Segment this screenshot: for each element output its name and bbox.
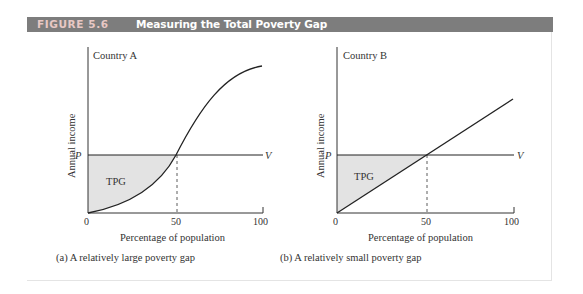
y-label-b: Annual income <box>315 113 326 178</box>
x-tick-50-b: 50 <box>421 216 431 227</box>
x-label-a: Percentage of population <box>120 232 226 243</box>
x-tick-0-a: 0 <box>84 216 89 227</box>
poverty-label-v-a: V <box>265 150 273 161</box>
chart-title-b: Country B <box>343 50 387 61</box>
charts-svg: Country A TPG P V 0 50 100 Percentage of… <box>0 0 583 294</box>
x-tick-100-a: 100 <box>253 216 268 227</box>
x-tick-0-b: 0 <box>333 216 338 227</box>
tpg-label-b: TPG <box>354 171 374 182</box>
poverty-label-v-b: V <box>517 150 525 161</box>
chart-a: Country A TPG P V 0 50 100 Percentage of… <box>66 47 273 243</box>
tpg-label-a: TPG <box>106 176 126 187</box>
x-tick-50-a: 50 <box>171 216 181 227</box>
x-label-b: Percentage of population <box>368 232 474 243</box>
chart-title-a: Country A <box>93 50 137 61</box>
chart-b: Country B TPG P V 0 50 100 Percentage of… <box>315 47 525 243</box>
x-tick-100-b: 100 <box>504 216 519 227</box>
caption-b: (b) A relatively small poverty gap <box>280 252 421 263</box>
tpg-area-a <box>88 155 176 213</box>
caption-a: (a) A relatively large poverty gap <box>56 252 195 263</box>
y-label-a: Annual income <box>66 113 77 178</box>
